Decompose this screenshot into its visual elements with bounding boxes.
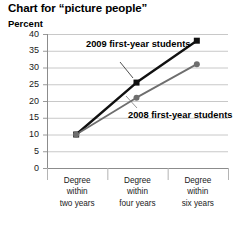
x-axis-category-1-line-1: Degree bbox=[47, 175, 107, 186]
annotation-2009-line2: students bbox=[152, 39, 191, 49]
series-annotation-2008: 2008 first-year students bbox=[128, 110, 232, 122]
x-axis-category-1-line-3: two years bbox=[47, 198, 107, 209]
x-axis-category-2-line-2: within bbox=[107, 186, 167, 197]
x-axis-category-3-line-2: within bbox=[168, 186, 228, 197]
annotation-2008-line2: students bbox=[194, 110, 233, 120]
annotation-2009-line1: 2009 first-year bbox=[86, 39, 149, 49]
axis-lines bbox=[47, 34, 228, 180]
x-axis-category-2: Degreewithinfour years bbox=[107, 175, 167, 209]
chart-screenshot: Chart for “picture people” Percent 05101… bbox=[0, 0, 234, 227]
annotation-2008-line1: 2008 first-year bbox=[128, 110, 191, 120]
series-annotation-2009: 2009 first-year students bbox=[86, 39, 190, 51]
x-axis-category-2-line-3: four years bbox=[107, 198, 167, 209]
x-axis-category-3: Degreewithinsix years bbox=[168, 175, 228, 209]
x-axis-category-3-line-3: six years bbox=[168, 198, 228, 209]
x-axis-category-1-line-2: within bbox=[47, 186, 107, 197]
x-axis-category-3-line-1: Degree bbox=[168, 175, 228, 186]
x-axis-category-2-line-1: Degree bbox=[107, 175, 167, 186]
gridlines bbox=[43, 35, 228, 169]
x-axis-category-1: Degreewithintwo years bbox=[47, 175, 107, 209]
